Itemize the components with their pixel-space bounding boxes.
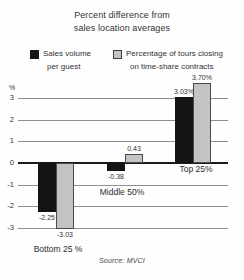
bar-chart-plot-area: 3210-1-2-3%-2.25-3.03Bottom 25 %-0.380.4… bbox=[0, 0, 244, 280]
bar-tours-closing-group1 bbox=[125, 154, 143, 163]
value-label: 3.70% bbox=[187, 74, 217, 82]
y-tick-label-1: 1 bbox=[0, 136, 14, 146]
y-tick-label-3: 3 bbox=[0, 93, 14, 103]
category-label-1: Middle 50% bbox=[87, 187, 157, 197]
value-label: 0.43 bbox=[119, 145, 149, 153]
bar-sales-volume-group2 bbox=[175, 97, 193, 163]
value-label: -0.38 bbox=[101, 173, 131, 181]
y-tick-label--1: -1 bbox=[0, 180, 14, 190]
source-note: Source: MVCI bbox=[0, 257, 244, 264]
category-label-2: Top 25% bbox=[161, 164, 231, 174]
y-tick-label--3: -3 bbox=[0, 223, 14, 233]
y-tick-label-2: 2 bbox=[0, 115, 14, 125]
gridline-y-3 bbox=[18, 228, 228, 229]
y-tick-label--2: -2 bbox=[0, 201, 14, 211]
y-tick-label-0: 0 bbox=[0, 158, 14, 168]
bar-tours-closing-group0 bbox=[56, 163, 74, 229]
y-axis-unit-label: % bbox=[9, 84, 15, 91]
value-label: -3.03 bbox=[50, 231, 80, 239]
bar-sales-volume-group1 bbox=[107, 163, 125, 171]
bar-sales-volume-group0 bbox=[38, 163, 56, 212]
bar-tours-closing-group2 bbox=[193, 83, 211, 163]
chart-figure: Percent difference from sales location a… bbox=[0, 0, 244, 280]
category-label-0: Bottom 25 % bbox=[23, 244, 93, 254]
